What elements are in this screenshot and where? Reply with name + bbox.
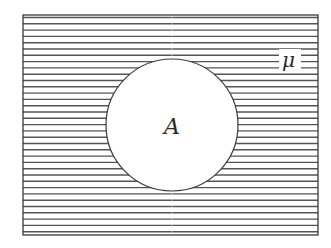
universal-set-label: μ (282, 48, 295, 72)
set-a-label: A (162, 114, 180, 139)
venn-diagram: μ A (0, 0, 331, 248)
